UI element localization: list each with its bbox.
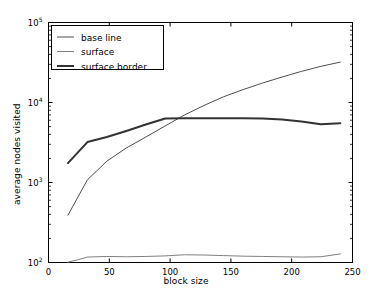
x-axis-label: block size — [0, 276, 372, 286]
y-axis-label: average nodes visited — [12, 103, 22, 205]
x-tick-label: 250 — [344, 267, 360, 277]
y-tick-label: 105 — [28, 16, 43, 28]
legend-label-base-line: base line — [81, 33, 122, 43]
x-tick-label: 100 — [162, 267, 178, 277]
x-tick-label: 50 — [104, 267, 115, 277]
x-tick-label: 200 — [284, 267, 300, 277]
legend-label-surface-border: surface border — [81, 62, 147, 72]
line-chart-plot: 050100150200250 102103104105 base linesu… — [0, 0, 372, 300]
x-tick-label: 0 — [46, 267, 51, 277]
x-tick-label: 150 — [223, 267, 239, 277]
y-tick-label: 103 — [28, 176, 43, 188]
x-axis-tick-labels: 050100150200250 — [46, 267, 361, 277]
y-axis-tick-labels: 102103104105 — [28, 16, 43, 268]
y-tick-label: 102 — [28, 256, 43, 268]
chart-legend: base linesurfacesurface border — [52, 26, 164, 72]
legend-label-surface: surface — [81, 47, 115, 57]
y-tick-label: 104 — [28, 96, 43, 108]
chart-figure: 050100150200250 102103104105 base linesu… — [0, 0, 372, 300]
